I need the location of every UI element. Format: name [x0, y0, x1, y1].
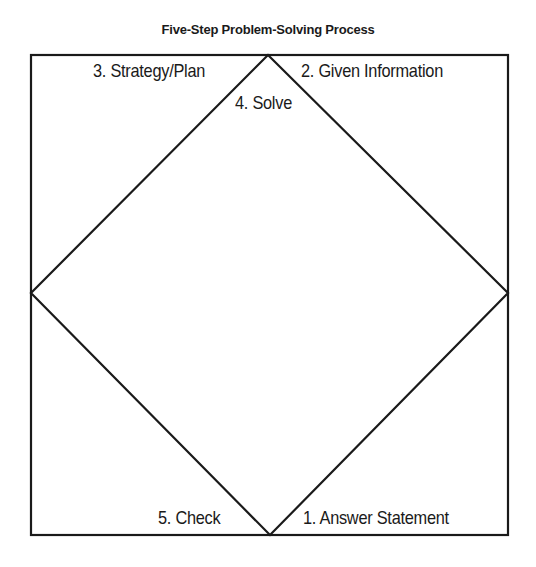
center-diamond: [31, 55, 508, 535]
step-3-strategy-plan-label: 3. Strategy/Plan: [93, 60, 205, 82]
step-1-answer-statement-label: 1. Answer Statement: [303, 507, 449, 529]
step-5-check-label: 5. Check: [158, 507, 220, 529]
diagram-frame: [0, 0, 536, 567]
outer-rectangle: [31, 55, 508, 535]
step-4-solve-label: 4. Solve: [235, 92, 292, 114]
step-2-given-information-label: 2. Given Information: [301, 60, 443, 82]
